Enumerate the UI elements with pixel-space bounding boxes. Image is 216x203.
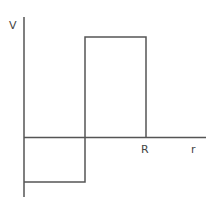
- potential-step-curve: [24, 37, 146, 182]
- potential-diagram: V R r: [0, 0, 216, 203]
- r-marker-label: R: [141, 143, 149, 156]
- y-axis-label: V: [9, 19, 17, 32]
- x-axis-label: r: [191, 143, 196, 156]
